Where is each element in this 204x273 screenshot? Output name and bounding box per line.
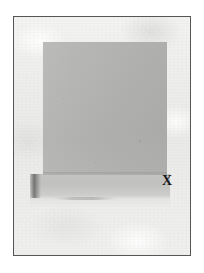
gray-panel xyxy=(43,42,167,175)
cast-shadow xyxy=(30,174,41,198)
panel-contact-line xyxy=(43,172,167,175)
annotation-x-label: X xyxy=(162,174,172,188)
base-plane-scuff-mark xyxy=(52,197,118,200)
base-plane-fade xyxy=(30,193,170,207)
photo-frame: X xyxy=(13,16,191,256)
page-canvas: X xyxy=(0,0,204,273)
panel-speck xyxy=(95,162,96,163)
gray-panel-sheen xyxy=(43,42,167,175)
panel-speck xyxy=(63,98,64,99)
panel-speck xyxy=(139,140,141,142)
